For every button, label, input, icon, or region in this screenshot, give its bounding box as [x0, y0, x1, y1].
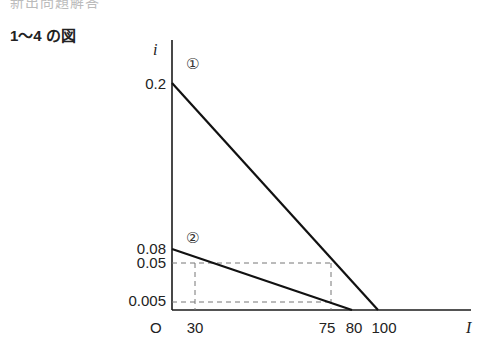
x-axis-label: I: [465, 319, 472, 336]
line-2: [172, 249, 352, 310]
origin-label: O: [150, 319, 162, 336]
y-tick-0-2: 0.2: [145, 75, 166, 92]
x-tick-30: 30: [187, 319, 204, 336]
x-tick-80: 80: [346, 319, 363, 336]
guide-lines: [172, 263, 331, 310]
x-tick-100: 100: [371, 319, 396, 336]
y-axis-label: i: [153, 41, 157, 58]
y-tick-0-05: 0.05: [137, 254, 166, 271]
x-tick-75: 75: [319, 319, 336, 336]
y-tick-0-005: 0.005: [128, 292, 166, 309]
chart: ① ② i I 0.2 0.08 0.05 0.005 O 30 75 80 1…: [0, 0, 497, 353]
line-1-label: ①: [186, 55, 199, 73]
line-1: [172, 83, 378, 310]
line-2-label: ②: [186, 229, 199, 247]
